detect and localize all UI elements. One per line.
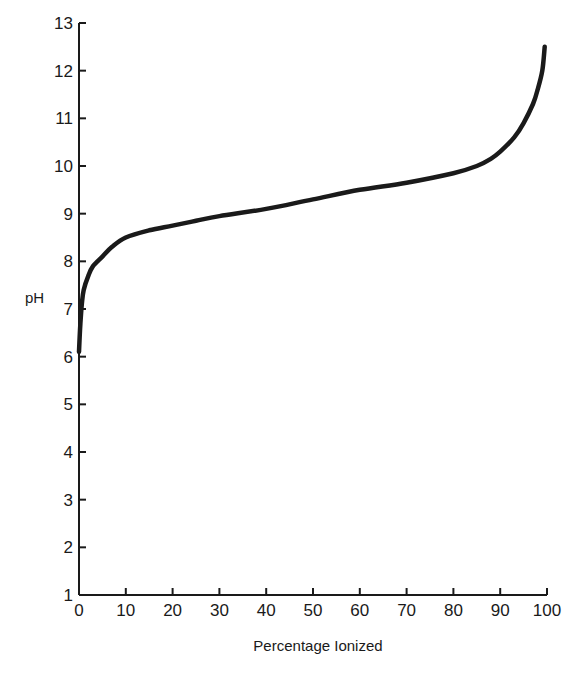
axes [79,23,547,595]
chart: 12345678910111213 0102030405060708090100… [0,0,582,675]
y-tick-label: 5 [64,395,73,414]
x-tick-label: 80 [444,601,463,620]
x-tick-label: 70 [397,601,416,620]
x-tick-label: 40 [257,601,276,620]
y-tick-label: 9 [64,205,73,224]
y-tick-label: 8 [64,252,73,271]
x-axis-title: Percentage Ionized [253,637,382,654]
titration-curve [79,47,545,352]
x-tick-label: 60 [350,601,369,620]
x-tick-label: 30 [210,601,229,620]
x-tick-label: 100 [533,601,561,620]
y-tick-label: 4 [64,443,73,462]
x-tick-label: 20 [163,601,182,620]
x-tick-label: 90 [491,601,510,620]
x-tick-label: 10 [116,601,135,620]
y-tick-label: 13 [54,14,73,33]
x-axis-ticks: 0102030405060708090100 [74,588,561,620]
y-tick-label: 1 [64,586,73,605]
x-tick-label: 50 [304,601,323,620]
y-tick-label: 12 [54,62,73,81]
y-tick-label: 3 [64,491,73,510]
y-tick-label: 10 [54,157,73,176]
y-tick-label: 6 [64,348,73,367]
y-tick-label: 2 [64,538,73,557]
y-tick-label: 7 [64,300,73,319]
y-tick-label: 11 [55,109,73,128]
y-axis-title: pH [25,289,44,306]
x-tick-label: 0 [74,601,83,620]
